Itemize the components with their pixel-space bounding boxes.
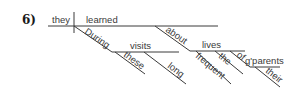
subject-word: they — [52, 14, 70, 25]
verb-word: learned — [86, 14, 118, 25]
object-lives-word: lives — [202, 39, 221, 50]
modifier-long-word: long — [166, 60, 187, 80]
prep-during-word: During — [83, 26, 112, 51]
diagram-canvas: 6) they learned During visits these long… — [0, 0, 296, 98]
object-visits-word: visits — [130, 40, 151, 51]
sentence-diagram: 6) they learned During visits these long… — [0, 0, 296, 98]
problem-number: 6) — [22, 13, 36, 27]
prep-about-word: about — [164, 24, 190, 47]
object-gparents-word: g'parents — [245, 55, 284, 66]
